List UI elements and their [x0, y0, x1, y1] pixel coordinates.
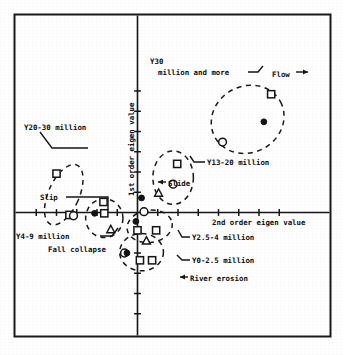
- point-marker-square: [101, 210, 108, 217]
- annotation-flow: Flow: [272, 70, 290, 79]
- point-marker-filled-dot: [124, 250, 130, 256]
- point-marker-filled-dot: [139, 195, 145, 201]
- point-marker-square: [174, 160, 181, 167]
- plot-frame: [15, 15, 331, 337]
- point-marker-circle: [140, 208, 148, 216]
- y-axis-label: 1st order eigen value: [127, 103, 136, 196]
- annotation-y4-9: Y4-9 million: [16, 232, 69, 241]
- annotation-slide: Slide: [168, 179, 190, 188]
- point-marker-square: [134, 227, 141, 234]
- annotation-slip: Slip: [40, 193, 58, 202]
- annotation-y0-2-5: Y0-2.5 million: [192, 256, 254, 265]
- point-marker-square: [136, 257, 143, 264]
- scatter-plot: [0, 0, 344, 355]
- point-marker-square: [153, 227, 160, 234]
- annotation-fall-collapse: Fall collapse: [48, 245, 106, 254]
- point-marker-square: [148, 257, 155, 264]
- point-marker-filled-dot: [133, 219, 139, 225]
- annotation-river-erosion: River erosion: [190, 274, 248, 283]
- figure-canvas: 1st order eigen value 2nd order eigen va…: [0, 0, 344, 355]
- point-marker-filled-dot: [261, 119, 267, 125]
- point-marker-square: [53, 170, 60, 177]
- x-axis-label: 2nd order eigen value: [212, 218, 305, 227]
- point-marker-filled-dot: [92, 210, 98, 216]
- annotation-y30-continued: million and more: [158, 68, 229, 77]
- annotation-y30: Y30: [150, 57, 163, 66]
- point-marker-square: [268, 91, 275, 98]
- point-marker-square: [100, 198, 107, 205]
- point-marker-circle: [70, 212, 78, 220]
- annotation-y20-30: Y20-30 million: [24, 123, 86, 132]
- annotation-y13-20: Y13-20 million: [207, 158, 269, 167]
- point-marker-circle: [219, 138, 227, 146]
- annotation-y2-5-4: Y2.5-4 million: [192, 233, 254, 242]
